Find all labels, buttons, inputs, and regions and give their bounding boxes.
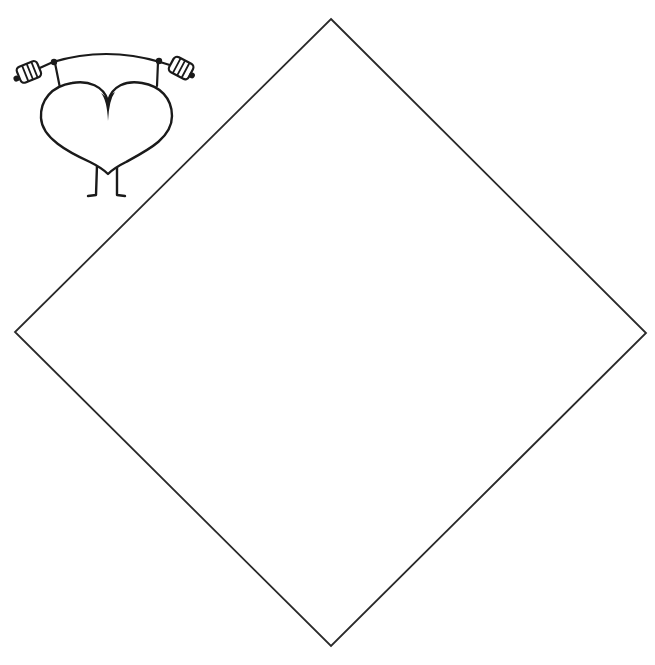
- right-arm: [157, 62, 158, 86]
- right-leg: [117, 165, 125, 196]
- barbell-bar: [22, 54, 186, 76]
- left-arm: [55, 63, 60, 88]
- left-leg: [88, 165, 97, 196]
- drawing-canvas: [0, 0, 655, 665]
- left-weight-icon: [10, 60, 42, 86]
- right-weight-icon: [167, 55, 199, 83]
- heart-weightlifter-icon: [10, 54, 199, 196]
- heart-body: [41, 82, 172, 174]
